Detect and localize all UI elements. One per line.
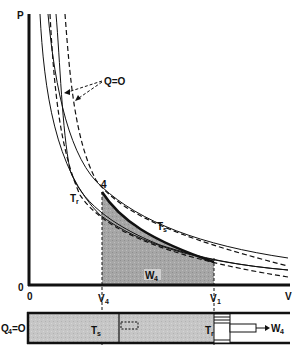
tick-v1: V (210, 293, 217, 304)
arrowhead-1 (64, 89, 70, 95)
piston-rod (230, 324, 256, 332)
tick-v4: V (98, 293, 105, 304)
piston[interactable] (214, 314, 230, 343)
point-4-label: 4 (101, 179, 107, 190)
work-out-sub: 4 (280, 328, 284, 335)
p-axis-label: P (17, 10, 24, 21)
right-reservoir-sub: r (211, 330, 214, 337)
adiabat-label: Q=O (104, 76, 126, 87)
pv-diagram: P 0 0 V V 4 V 1 Q=O 4 T r T s W 4 Q 4 =O… (0, 0, 299, 353)
adiabat-arrow-2 (76, 82, 102, 100)
origin-y-label: 0 (18, 282, 24, 293)
isotherm-outer (48, 14, 288, 258)
cylinder-gas-mid (102, 314, 119, 343)
arrowhead-2 (75, 95, 81, 101)
cylinder (27, 312, 290, 344)
adiabat-upper (65, 14, 288, 266)
heat-value: =O (12, 323, 26, 334)
isotherm-cold-curve (56, 14, 288, 270)
work-sub: 4 (154, 275, 158, 282)
v-axis-label: V (285, 291, 292, 302)
origin-x-label: 0 (27, 291, 33, 302)
left-reservoir-sub: s (97, 330, 101, 337)
tick-v1-sub: 1 (217, 298, 221, 305)
tick-v4-sub: 4 (105, 298, 109, 305)
adiabat-arrow-1 (65, 81, 102, 93)
work-out-arrowhead (265, 325, 270, 331)
isotherm-hot-sub: s (163, 226, 167, 233)
adiabat-lower (50, 14, 288, 277)
isotherm-cold-sub: r (76, 198, 79, 205)
